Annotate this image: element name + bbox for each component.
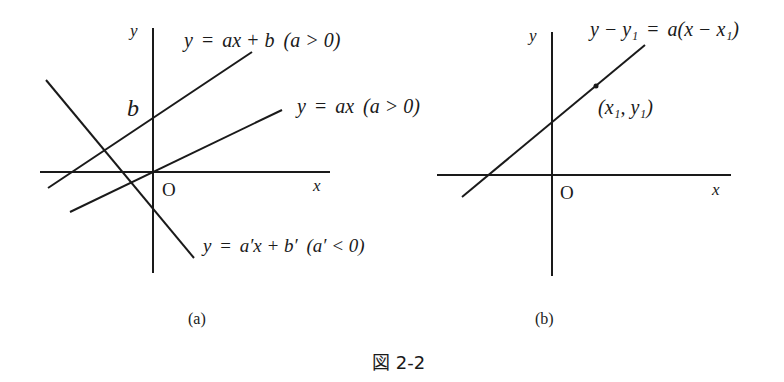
point-label: (x₁, y₁) <box>598 96 653 119</box>
eq-condition: (a′ < 0) <box>306 235 364 257</box>
eq-lhs: y <box>201 235 212 256</box>
panel-label-a: (a) <box>188 310 206 328</box>
eq-rhs: ax + b <box>222 29 274 51</box>
x-axis-label-a: x <box>312 176 321 195</box>
eq-lhs: y <box>295 95 306 118</box>
eq-lhs: y − y₁ <box>588 18 638 41</box>
eq-condition: (a > 0) <box>284 29 341 52</box>
equation-ax-plus-b: y = ax + b (a > 0) <box>182 29 341 52</box>
panel-b: y x O y − y₁ = a(x − x₁) (x₁, y₁) (b) <box>437 18 739 328</box>
eq-rhs: ax <box>335 95 354 117</box>
eq-lhs: y <box>182 29 193 52</box>
eq-sign: = <box>315 95 326 117</box>
eq-rhs: a′x + b′ <box>240 235 299 256</box>
point-x1-y1 <box>594 84 599 89</box>
equation-negative-slope: y = a′x + b′ (a′ < 0) <box>201 235 365 257</box>
figure-2-2: y x O b y = ax + b (a > 0) y = ax (a > 0… <box>0 0 784 382</box>
equation-point-slope: y − y₁ = a(x − x₁) <box>588 18 739 41</box>
panel-label-b: (b) <box>535 310 554 328</box>
figure-caption: 図 2-2 <box>372 352 425 373</box>
x-axis-label-b: x <box>711 180 720 199</box>
equation-ax: y = ax (a > 0) <box>295 95 420 118</box>
y-axis-label-b: y <box>527 26 537 45</box>
intercept-label-b: b <box>127 95 139 121</box>
origin-label-a: O <box>162 179 176 200</box>
eq-rhs: a(x − x₁) <box>667 18 739 41</box>
eq-condition: (a > 0) <box>363 95 420 118</box>
origin-label-b: O <box>560 182 574 203</box>
line-negative-slope <box>46 80 194 258</box>
eq-sign: = <box>220 235 231 256</box>
y-axis-label-a: y <box>128 21 138 40</box>
eq-sign: = <box>202 29 213 51</box>
line-ax <box>70 110 282 212</box>
eq-sign: = <box>647 18 658 40</box>
panel-a: y x O b y = ax + b (a > 0) y = ax (a > 0… <box>40 21 420 328</box>
